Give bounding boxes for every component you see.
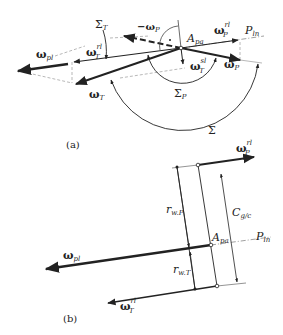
label-omega-t-sl: ωslT	[190, 57, 206, 75]
construction-line	[240, 60, 262, 63]
diagram-svg: ΣT −ωP Apa ωrlP Pln ωrlT ωpl ωslT ωP ωT …	[0, 0, 283, 335]
caption-a: (a)	[66, 139, 80, 150]
pitch-point-a	[179, 46, 183, 50]
label-omega-pl-b: ωpl	[63, 249, 80, 263]
panel-a: ΣT −ωP Apa ωrlP Pln ωrlT ωpl ωslT ωP ωT …	[18, 18, 264, 150]
construction-line	[110, 36, 150, 38]
r-wt-dimension	[190, 252, 195, 289]
omega-t-sl-vector	[181, 48, 183, 64]
c-gc-dimension	[221, 174, 237, 282]
label-c-gc: Cg/c	[232, 206, 251, 220]
point	[176, 166, 179, 169]
label-r-wp: rw.P	[166, 203, 184, 217]
omega-pl-vector	[18, 64, 68, 71]
label-neg-omega-p: −ωP	[137, 21, 160, 34]
label-a-pa-b: Apa	[211, 231, 229, 245]
label-sigma-p: ΣP	[174, 87, 187, 101]
label-omega-t: ωT	[89, 88, 105, 102]
sigma-t-arc	[103, 30, 106, 59]
omega-p-rl-vector-b	[198, 157, 254, 165]
label-omega-pl: ωpl	[36, 48, 53, 62]
label-sigma-t: ΣT	[95, 18, 109, 32]
label-omega-t-rl-b: ωrlT	[120, 297, 136, 315]
neg-omega-p-vector	[124, 36, 181, 48]
normal-line	[178, 20, 181, 48]
caption-b: (b)	[63, 313, 77, 324]
right-angle-dot	[169, 39, 171, 41]
construction-line	[120, 68, 185, 78]
construction-line	[217, 283, 246, 286]
label-sigma: Σ	[208, 124, 216, 137]
axis-line-center	[198, 165, 217, 286]
label-p-ln-b: Pln	[255, 230, 271, 244]
label-a-pa: Apa	[186, 32, 204, 46]
label-p-ln: Pln	[244, 24, 260, 38]
label-omega-p-rl: ωrlP	[214, 21, 230, 39]
label-omega-p-rl-b: ωrlP	[236, 139, 252, 157]
label-omega-t-rl: ωrlT	[86, 43, 102, 61]
point-open	[215, 284, 219, 288]
construction-line	[28, 73, 72, 83]
panel-b: ωrlP rw.P Cg/c Pln Apa ωpl rw.T ωrlT (b)	[46, 139, 271, 324]
point-open	[196, 163, 200, 167]
label-r-wt: rw.T	[173, 263, 192, 277]
construction-line	[55, 46, 85, 56]
point	[194, 288, 197, 291]
gear-axes-diagram: ΣT −ωP Apa ωrlP Pln ωrlT ωpl ωslT ωP ωT …	[0, 0, 283, 335]
r-wp-dimension	[177, 167, 189, 247]
